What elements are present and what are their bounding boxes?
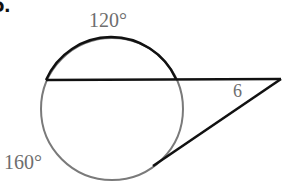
diagram-canvas: 5. 120° 6 160° (0, 0, 285, 188)
arc-120 (46, 37, 176, 80)
arc-measure-160: 160° (4, 152, 42, 172)
secant-line (46, 79, 281, 80)
arc-measure-120: 120° (89, 10, 127, 30)
tangent-line (153, 79, 281, 166)
segment-length-6: 6 (233, 82, 242, 100)
geometry-figure (0, 0, 285, 188)
